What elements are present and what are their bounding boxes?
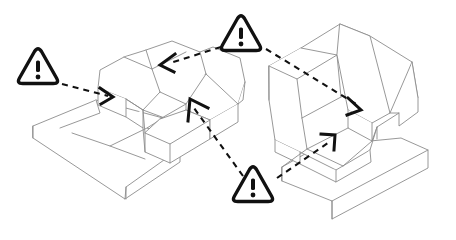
isometric-parts-diagram <box>0 0 456 240</box>
warning-triangle-1[interactable] <box>18 49 57 84</box>
warning-exclamation-stem <box>36 61 40 73</box>
left-part <box>33 41 245 199</box>
right-part <box>269 24 428 219</box>
warning-exclamation-dot <box>36 75 41 80</box>
warning-triangle-2[interactable] <box>221 16 260 51</box>
warning-exclamation-stem <box>239 28 243 40</box>
diagram-canvas: Isometric CAD part comparison with warni… <box>0 0 456 240</box>
warning-exclamation-dot <box>251 193 256 198</box>
warning-exclamation-stem <box>251 179 255 191</box>
warning-exclamation-dot <box>239 42 244 47</box>
